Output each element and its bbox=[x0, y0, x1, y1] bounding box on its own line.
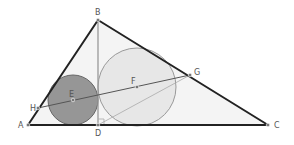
label-d: D bbox=[95, 129, 101, 138]
point-c bbox=[266, 123, 270, 127]
point-h bbox=[36, 106, 40, 110]
point-g bbox=[188, 73, 192, 77]
point-f bbox=[135, 85, 139, 89]
label-g: G bbox=[194, 68, 200, 77]
label-c: C bbox=[274, 121, 280, 130]
label-a: A bbox=[18, 121, 24, 130]
point-b bbox=[96, 18, 100, 22]
point-a bbox=[26, 123, 30, 127]
point-d bbox=[96, 123, 100, 127]
label-f: F bbox=[131, 77, 136, 86]
label-e: E bbox=[69, 90, 74, 99]
geometry-diagram: A B C D E F G H bbox=[0, 0, 294, 145]
label-h: H bbox=[30, 104, 36, 113]
label-b: B bbox=[95, 8, 101, 17]
